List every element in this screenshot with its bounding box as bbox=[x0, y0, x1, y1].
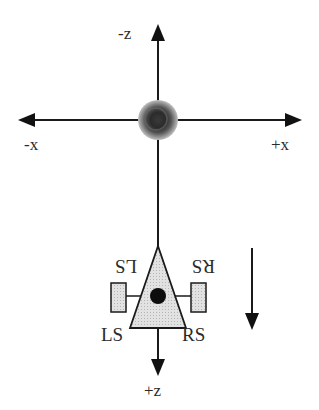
neg-x-arrowhead-icon bbox=[18, 113, 35, 127]
left-wheel-label: LS bbox=[101, 324, 123, 345]
sphere-target bbox=[138, 100, 178, 140]
left-wheel bbox=[111, 283, 126, 312]
pos-x-arrowhead-icon bbox=[285, 113, 302, 127]
pos-z-label: +z bbox=[144, 381, 162, 400]
right-wheel-label: RS bbox=[182, 324, 205, 345]
robot-center-dot bbox=[150, 288, 166, 304]
right-wheel bbox=[191, 283, 206, 312]
coordinate-diagram: -z +z -x +x LS RS LS RS bbox=[0, 0, 319, 410]
neg-x-label: -x bbox=[24, 135, 39, 154]
robot-body-triangle bbox=[130, 246, 186, 328]
mirrored-left-label: LS bbox=[115, 256, 137, 277]
pos-x-label: +x bbox=[271, 135, 290, 154]
motion-direction-arrow bbox=[245, 248, 259, 330]
mirrored-right-label: RS bbox=[192, 256, 215, 277]
pos-z-arrowhead-icon bbox=[151, 359, 165, 376]
down-arrowhead-icon bbox=[245, 313, 259, 330]
neg-z-label: -z bbox=[118, 24, 132, 43]
neg-z-arrowhead-icon bbox=[151, 24, 165, 41]
